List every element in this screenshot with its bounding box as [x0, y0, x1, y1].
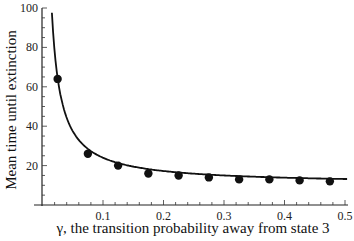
x-axis-label: γ, the transition probability away from … [55, 220, 329, 236]
data-point [53, 75, 61, 83]
x-tick-label: 0.5 [338, 209, 353, 223]
data-point [144, 169, 152, 177]
data-point [114, 161, 122, 169]
axes [34, 8, 348, 206]
y-axis-ticks: 20406080100 [20, 1, 47, 195]
curve-line [52, 13, 347, 179]
data-point [84, 150, 92, 158]
data-point [295, 176, 303, 184]
y-axis-label: Mean time until extinction [3, 30, 19, 190]
y-tick-label: 40 [26, 119, 38, 133]
data-point [265, 175, 273, 183]
data-point [205, 173, 213, 181]
data-point [326, 177, 334, 185]
y-tick-label: 60 [26, 80, 38, 94]
data-point [174, 171, 182, 179]
chart: 20406080100 0.10.20.30.40.5 Mean time un… [0, 0, 354, 241]
data-point [235, 175, 243, 183]
y-tick-label: 20 [26, 159, 38, 173]
data-points [53, 75, 334, 186]
y-tick-label: 80 [26, 40, 38, 54]
y-tick-label: 100 [20, 1, 38, 15]
